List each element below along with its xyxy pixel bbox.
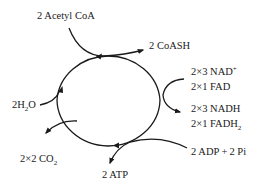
cycle-direction-arrow-bottom (113, 143, 119, 149)
nad-superscript: + (233, 65, 237, 73)
acetyl-coa-arrow (69, 28, 143, 56)
fad-label: 2×1 FAD (191, 81, 231, 92)
fadh2-label-text: 2×1 FADH (191, 118, 238, 129)
atp-label: 2 ATP (102, 169, 128, 180)
nad-label: 2×3 NAD+ (191, 65, 237, 77)
co2-label-text: 2×2 CO (20, 153, 54, 164)
atp-arrow (110, 139, 187, 163)
acetyl-coa-label: 2 Acetyl CoA (37, 10, 95, 21)
nad-reduction-arrow (163, 79, 184, 112)
coash-label: 2 CoASH (149, 40, 191, 51)
citric-acid-cycle-diagram: 2 Acetyl CoA 2 CoASH 2×3 NAD+ 2×1 FAD 2×… (0, 0, 256, 192)
nad-label-text: 2×3 NAD (191, 66, 233, 77)
water-label: 2H2O (12, 99, 36, 113)
coash-arrow (104, 50, 143, 56)
adp-pi-label: 2 ADP + 2 Pi (191, 146, 246, 157)
co2-label: 2×2 CO2 (20, 153, 58, 167)
nadh-label: 2×3 NADH (191, 103, 241, 114)
fadh2-label: 2×1 FADH2 (191, 118, 242, 132)
co2-subscript: 2 (54, 159, 58, 167)
cycle-ring (57, 54, 160, 149)
water-label-prefix: 2H (12, 99, 25, 110)
water-label-suffix: O (28, 99, 36, 110)
water-arrow (40, 92, 59, 105)
fadh2-subscript: 2 (238, 124, 242, 132)
co2-arrow (46, 121, 77, 133)
